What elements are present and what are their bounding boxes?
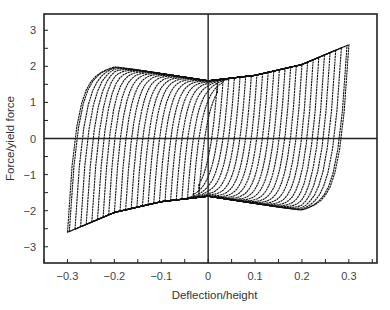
x-tick-label: −0.1: [150, 270, 172, 282]
y-tick-label: 1: [30, 96, 36, 108]
x-tick-label: −0.3: [57, 270, 79, 282]
y-axis-title: Force/yield force: [4, 96, 16, 181]
x-axis-title: Deflection/height: [172, 289, 258, 301]
x-tick-label: 0.2: [294, 270, 309, 282]
y-tick-label: 2: [30, 60, 36, 72]
x-tick-label: 0.1: [247, 270, 262, 282]
hysteresis-chart: −0.3−0.2−0.100.10.20.3 −3−2−10123 Deflec…: [0, 0, 390, 310]
x-tick-label: 0: [205, 270, 211, 282]
y-tick-label: 3: [30, 24, 36, 36]
x-tick-label: −0.2: [103, 270, 125, 282]
x-tick-label: 0.3: [341, 270, 356, 282]
y-tick-label: 0: [30, 133, 36, 145]
y-tick-label: −2: [23, 205, 36, 217]
zero-axis-lines: [44, 14, 377, 263]
y-tick-label: −3: [23, 241, 36, 253]
y-tick-label: −1: [23, 169, 36, 181]
